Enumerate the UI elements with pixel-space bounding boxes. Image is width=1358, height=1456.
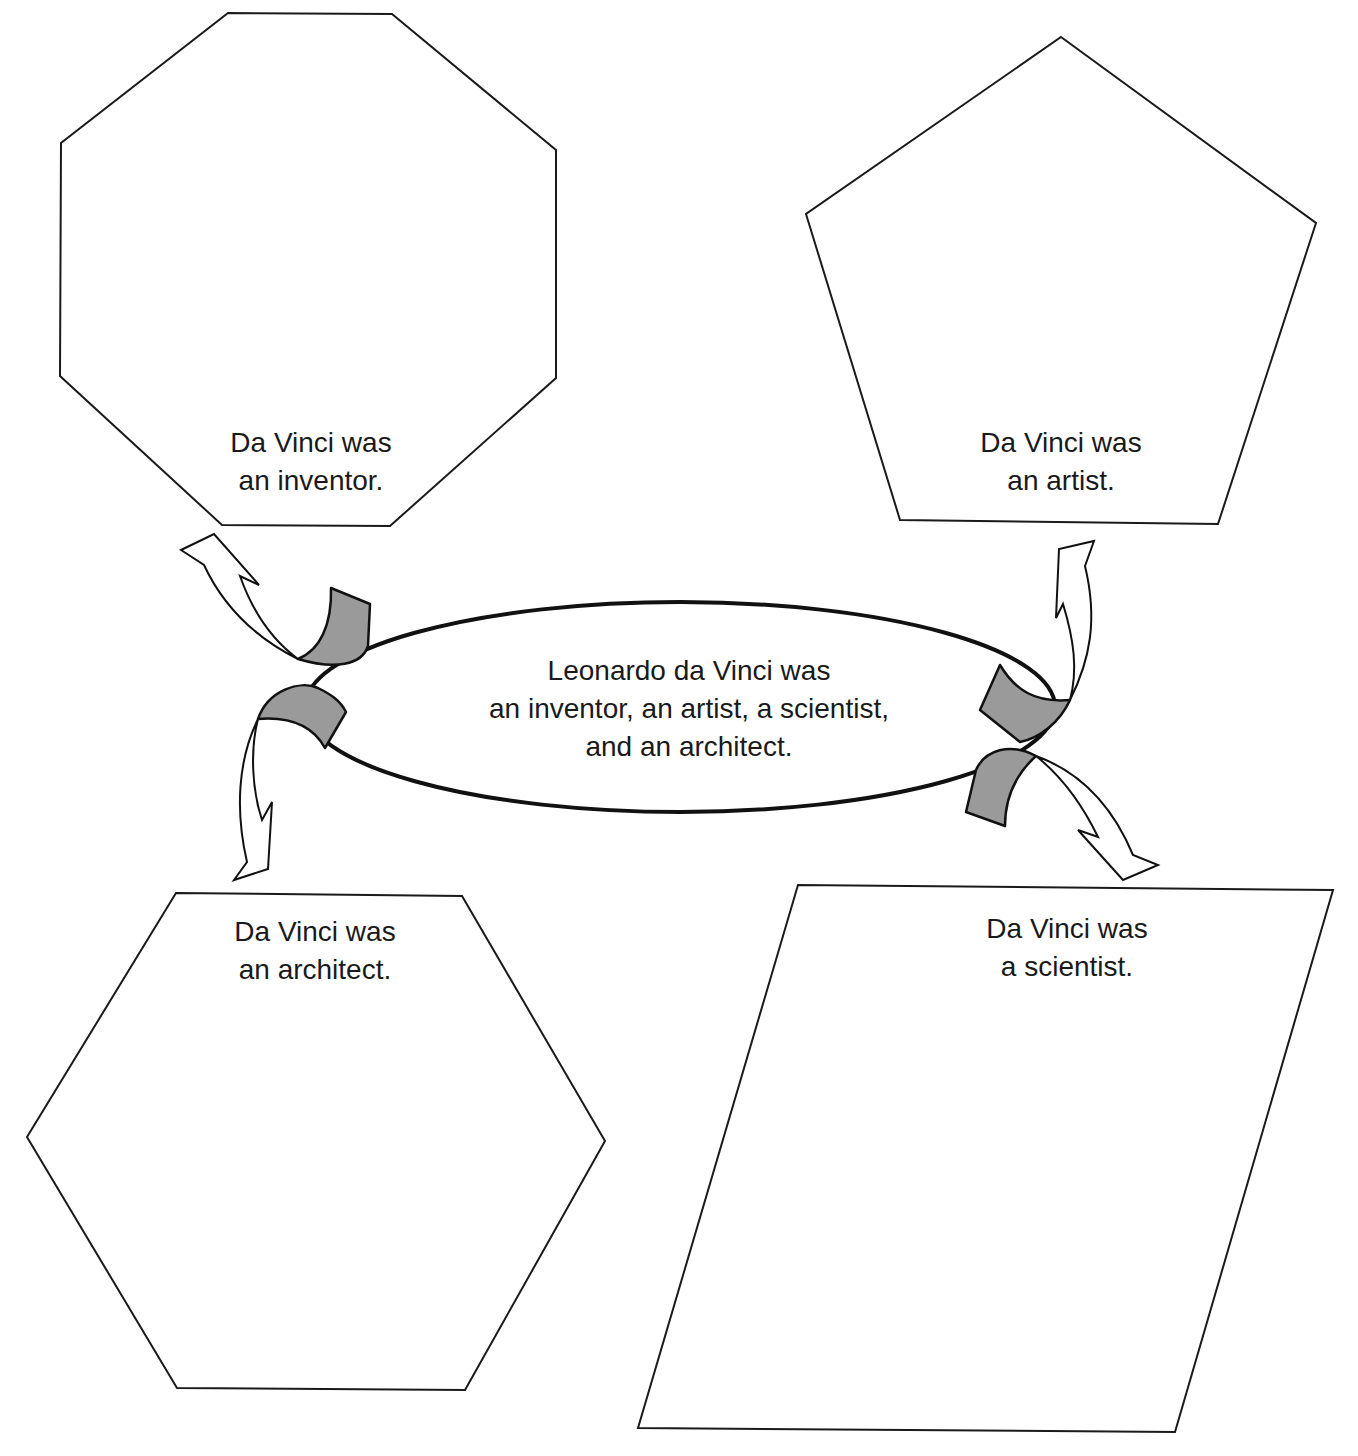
architect-text: Da Vinci was an architect. — [234, 913, 395, 989]
scientist-text: Da Vinci was a scientist. — [986, 910, 1147, 986]
inventor-text: Da Vinci was an inventor. — [230, 424, 391, 500]
center-text: Leonardo da Vinci was an inventor, an ar… — [489, 652, 889, 766]
artist-line-1: Da Vinci was — [980, 424, 1141, 462]
ribbon-upper-left-icon — [298, 588, 370, 665]
arrow-to-inventor-icon — [181, 534, 298, 659]
center-line-1: Leonardo da Vinci was — [489, 652, 889, 690]
inventor-line-2: an inventor. — [230, 462, 391, 500]
center-line-2: an inventor, an artist, a scientist, — [489, 690, 889, 728]
arrow-to-scientist-icon — [1036, 756, 1158, 880]
scientist-line-2: a scientist. — [986, 948, 1147, 986]
artist-text: Da Vinci was an artist. — [980, 424, 1141, 500]
scientist-line-1: Da Vinci was — [986, 910, 1147, 948]
artist-line-2: an artist. — [980, 462, 1141, 500]
inventor-line-1: Da Vinci was — [230, 424, 391, 462]
arrow-to-artist-icon — [1056, 541, 1094, 700]
arrow-to-architect-icon — [234, 719, 272, 880]
architect-line-1: Da Vinci was — [234, 913, 395, 951]
architect-line-2: an architect. — [234, 951, 395, 989]
center-line-3: and an architect. — [489, 728, 889, 766]
